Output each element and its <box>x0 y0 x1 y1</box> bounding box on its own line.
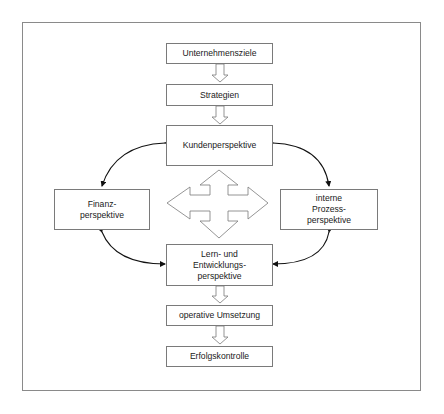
curve-customer-process <box>273 143 329 186</box>
curve-customer-finance <box>102 143 165 186</box>
node-label: perspektive <box>80 210 124 221</box>
node-goals: Unternehmensziele <box>166 43 273 64</box>
node-process: interne Prozess- perspektive <box>280 189 378 230</box>
node-label: Strategien <box>200 90 239 101</box>
node-customer: Kundenperspektive <box>166 125 273 166</box>
down-arrow-icon <box>212 326 228 344</box>
down-arrow-icon <box>212 64 228 82</box>
node-label: perspektive <box>307 215 351 226</box>
four-way-arrow-icon <box>167 170 268 238</box>
down-arrow-icon <box>212 106 228 124</box>
node-label: operative Umsetzung <box>179 310 260 321</box>
node-strategies: Strategien <box>166 84 273 106</box>
curve-finance-learning <box>102 232 165 264</box>
node-operations: operative Umsetzung <box>166 305 273 326</box>
node-label: Lern- und <box>201 249 238 260</box>
curve-process-learning <box>273 232 329 264</box>
node-learning: Lern- und Entwicklungs- perspektive <box>166 244 273 286</box>
node-label: Prozess- <box>312 204 346 215</box>
node-label: perspektive <box>198 271 242 282</box>
node-label: Finanz- <box>88 199 117 210</box>
node-label: interne <box>316 193 342 204</box>
node-label: Kundenperspektive <box>183 140 257 151</box>
node-label: Unternehmensziele <box>182 48 256 59</box>
down-arrow-icon <box>212 286 228 303</box>
node-finance: Finanz- perspektive <box>54 189 150 230</box>
node-control: Erfolgskontrolle <box>166 346 273 367</box>
node-label: Entwicklungs- <box>193 260 246 271</box>
node-label: Erfolgskontrolle <box>190 351 249 362</box>
